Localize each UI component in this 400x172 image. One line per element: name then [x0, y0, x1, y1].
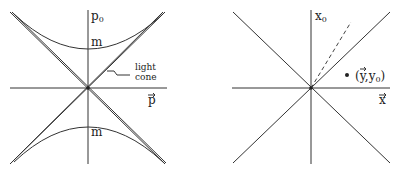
light-cone-leader-line	[107, 71, 130, 75]
position-space-diagram: x0 (y,y0) x	[232, 9, 390, 164]
p0-axis-label: p0	[91, 9, 104, 24]
diagram-canvas: p0 m m light cone p x0 (y,y0) x	[0, 0, 400, 172]
momentum-space-diagram: p0 m m light cone p	[10, 9, 167, 164]
origin-dot	[86, 86, 90, 90]
upper-mass-label: m	[91, 35, 103, 49]
event-point-label: (y,y0)	[355, 69, 385, 84]
light-cone-label-line2: cone	[135, 72, 157, 82]
event-point-dot	[345, 73, 349, 77]
origin-dot	[309, 86, 313, 90]
lower-mass-label: m	[91, 125, 103, 139]
x0-axis-label: x0	[315, 9, 327, 24]
light-cone-label-line1: light	[135, 62, 156, 72]
